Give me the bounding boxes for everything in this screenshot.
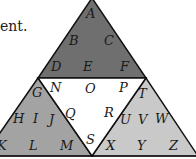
letter-x: X	[105, 138, 116, 153]
letter-q: Q	[65, 106, 76, 121]
letter-l: L	[28, 138, 38, 153]
letter-r: R	[103, 105, 114, 120]
letter-y: Y	[137, 138, 147, 153]
letter-b: B	[68, 33, 79, 48]
letter-s: S	[86, 132, 95, 147]
letter-h: H	[12, 111, 25, 126]
letter-i: I	[32, 111, 39, 126]
letter-m: M	[59, 138, 74, 153]
letter-d: D	[50, 59, 62, 74]
letter-w: W	[155, 111, 170, 126]
alphabet-triangle-diagram: A B C D E F N O P Q R S G H I J K L M T …	[0, 0, 196, 159]
letter-c: C	[104, 33, 114, 48]
letter-v: V	[138, 112, 149, 127]
letter-a: A	[85, 6, 95, 21]
letter-p: P	[118, 80, 128, 95]
letter-n: N	[49, 80, 62, 95]
letter-z: Z	[168, 138, 179, 153]
letter-o: O	[85, 81, 96, 96]
letter-u: U	[120, 112, 132, 127]
letter-t: T	[138, 86, 148, 101]
letter-g: G	[32, 85, 42, 100]
letter-f: F	[119, 59, 130, 74]
letter-e: E	[82, 59, 93, 74]
